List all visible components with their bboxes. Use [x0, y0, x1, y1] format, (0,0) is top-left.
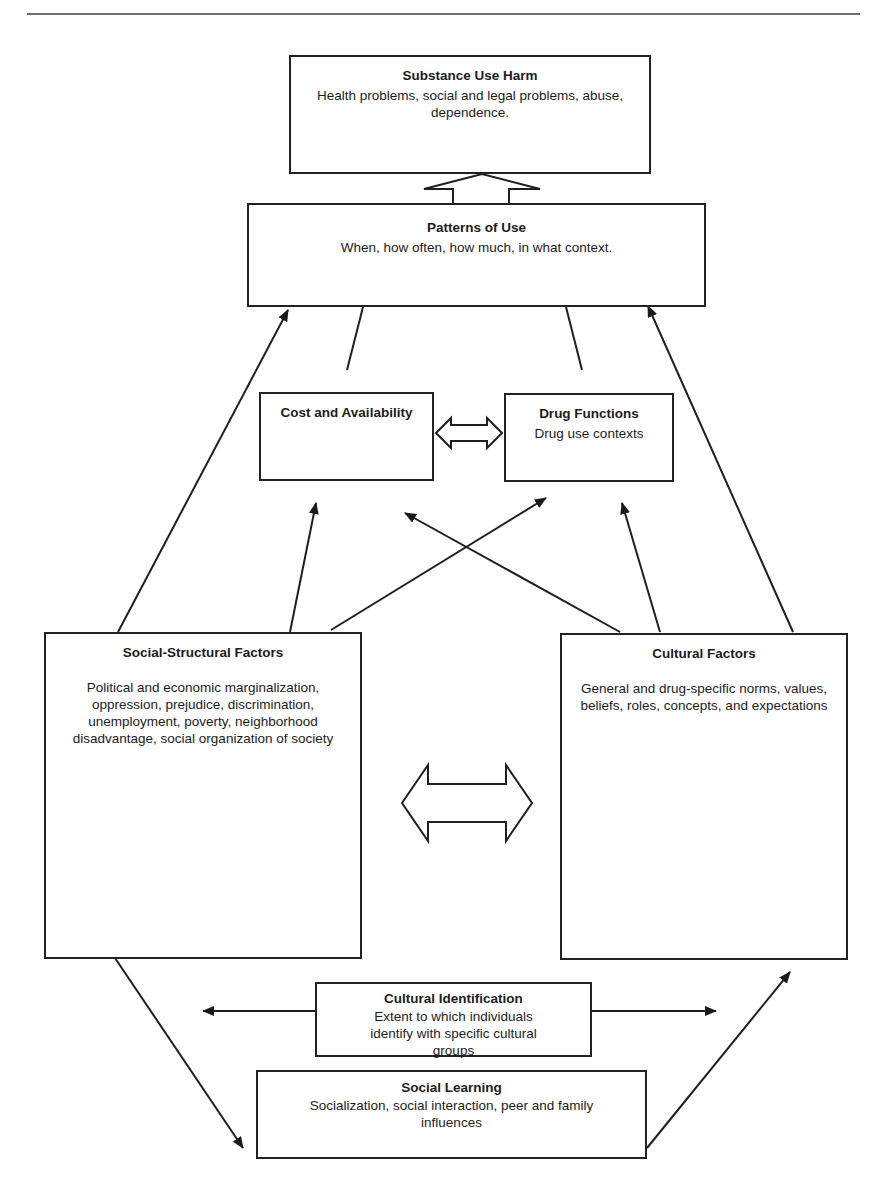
node-cost-and-availability: Cost and Availability: [259, 392, 434, 481]
node-substance-use-harm: Substance Use Harm Health problems, soci…: [289, 55, 651, 174]
node-description: Health problems, social and legal proble…: [303, 87, 637, 121]
line-cost-to-patterns: [347, 307, 363, 370]
node-title: Social Learning: [270, 1079, 633, 1096]
node-title: Cost and Availability: [267, 404, 426, 421]
node-cultural-identification: Cultural Identification Extent to which …: [315, 982, 592, 1057]
arrow-cultural-to-cost: [405, 513, 620, 632]
node-patterns-of-use: Patterns of Use When, how often, how muc…: [247, 203, 706, 307]
node-title: Substance Use Harm: [303, 67, 637, 84]
node-drug-functions: Drug Functions Drug use contexts: [504, 393, 674, 482]
node-title: Patterns of Use: [261, 219, 692, 236]
node-social-learning: Social Learning Socialization, social in…: [256, 1070, 647, 1159]
hollow-double-arrow-social-cultural: [402, 765, 532, 841]
node-social-structural-factors: Social-Structural Factors Political and …: [44, 632, 362, 959]
node-description: Extent to which individuals identify wit…: [323, 1008, 584, 1059]
arrow-social-to-cost: [290, 503, 316, 632]
arrow-social-to-learning: [115, 958, 243, 1148]
node-title: Cultural Factors: [570, 645, 838, 662]
node-description: Socialization, social interaction, peer …: [270, 1097, 633, 1131]
hollow-double-arrow-cost-drug: [436, 418, 502, 448]
node-title: Social-Structural Factors: [58, 644, 348, 661]
arrow-cultural-to-drug: [622, 503, 660, 632]
node-description: When, how often, how much, in what conte…: [261, 239, 692, 256]
arrow-social-to-drug: [331, 498, 546, 630]
arrow-learning-to-cultural: [647, 972, 790, 1148]
node-description: Political and economic marginalization, …: [58, 679, 348, 747]
node-title: Cultural Identification: [323, 990, 584, 1007]
line-drug-to-patterns: [566, 307, 582, 370]
hollow-arrow-patterns-to-harm: [424, 174, 540, 204]
node-cultural-factors: Cultural Factors General and drug-specif…: [560, 633, 848, 960]
node-description: General and drug-specific norms, values,…: [570, 680, 838, 714]
node-title: Drug Functions: [512, 405, 666, 422]
node-description: Drug use contexts: [512, 425, 666, 442]
